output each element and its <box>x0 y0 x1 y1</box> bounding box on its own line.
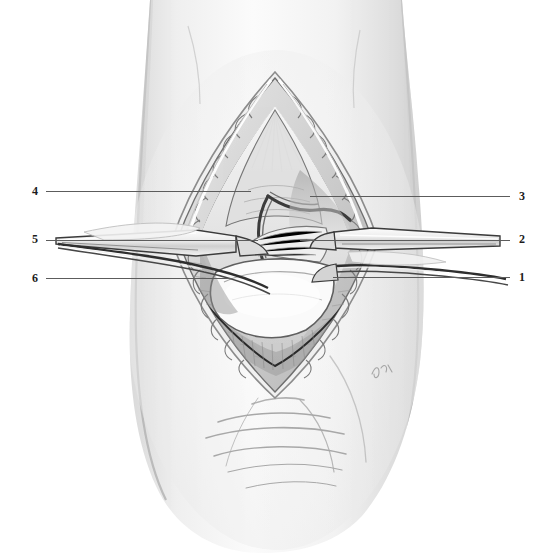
callout-number-2[interactable]: 2 <box>519 233 525 245</box>
callout-number-4[interactable]: 4 <box>32 185 38 197</box>
leader-line-3 <box>310 196 510 197</box>
illustration-canvas: 4 5 6 3 2 1 <box>0 0 551 553</box>
retracted-tissue-right <box>348 251 446 265</box>
leader-line-1 <box>333 277 510 278</box>
leader-line-4 <box>46 191 251 192</box>
leader-line-6 <box>46 278 231 279</box>
leader-line-5 <box>46 240 258 241</box>
callout-number-1[interactable]: 1 <box>519 271 525 283</box>
callout-number-6[interactable]: 6 <box>32 272 38 284</box>
leader-line-2 <box>300 240 510 241</box>
callout-number-5[interactable]: 5 <box>32 233 38 245</box>
callout-number-3[interactable]: 3 <box>519 190 525 202</box>
retractor-right-upper <box>310 228 500 250</box>
